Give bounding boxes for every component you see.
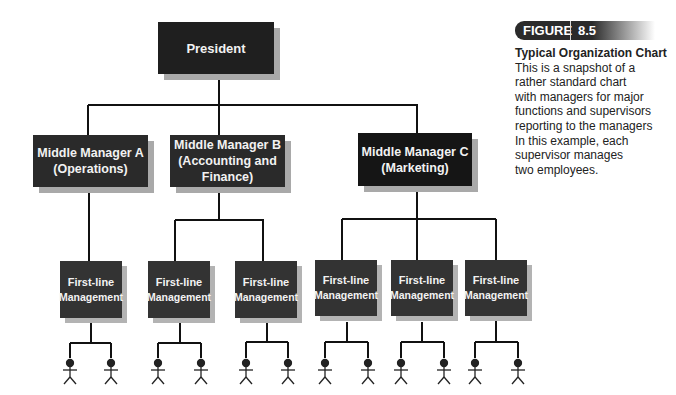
- manager-b-title: Middle Manager B: [174, 137, 281, 153]
- figure-label: FIGURE 8.5: [515, 21, 655, 40]
- president-label: President: [186, 41, 245, 56]
- first-line-box-3: First-lineManagement: [235, 261, 297, 318]
- first-line-box-6: First-lineManagement: [465, 260, 527, 316]
- president-box: President: [158, 22, 274, 74]
- manager-b-box: Middle Manager B (Accounting and Finance…: [170, 135, 285, 187]
- first-line-box-2: First-lineManagement: [148, 261, 210, 318]
- first-line-label: First-line: [147, 275, 211, 290]
- manager-a-box: Middle Manager A (Operations): [33, 135, 148, 187]
- caption-title: Typical Organization Chart: [515, 46, 675, 61]
- first-line-box-1: First-lineManagement: [60, 261, 122, 318]
- figure-word: FIGURE: [523, 21, 572, 40]
- management-label: Management: [59, 290, 123, 305]
- manager-b-dept-1: (Accounting and: [174, 153, 281, 169]
- caption-line: functions and supervisors: [515, 104, 675, 119]
- management-label: Management: [390, 288, 454, 303]
- caption-line: two employees.: [515, 163, 675, 178]
- employee-icon: [468, 360, 482, 385]
- manager-c-dept: (Marketing): [362, 160, 469, 176]
- employee-icon: [361, 360, 375, 385]
- manager-c-title: Middle Manager C: [362, 144, 469, 160]
- manager-a-title: Middle Manager A: [37, 145, 144, 161]
- management-label: Management: [314, 288, 378, 303]
- first-line-label: First-line: [59, 275, 123, 290]
- employee-icon: [318, 360, 332, 385]
- caption-line: with managers for major: [515, 90, 675, 105]
- figure-caption: Typical Organization Chart This is a sna…: [515, 46, 675, 177]
- management-label: Management: [234, 290, 298, 305]
- caption-line: In this example, each: [515, 134, 675, 149]
- figure-label-divider: [570, 21, 571, 40]
- employee-icon: [63, 360, 77, 385]
- first-line-label: First-line: [464, 273, 528, 288]
- employee-icon: [104, 360, 118, 385]
- first-line-box-4: First-lineManagement: [315, 260, 377, 316]
- caption-line: supervisor manages: [515, 148, 675, 163]
- first-line-label: First-line: [390, 273, 454, 288]
- employee-icon: [511, 360, 525, 385]
- employee-icon: [239, 360, 253, 385]
- caption-line: rather standard chart: [515, 75, 675, 90]
- manager-c-box: Middle Manager C (Marketing): [358, 133, 472, 186]
- employee-icon: [151, 360, 165, 385]
- first-line-box-5: First-lineManagement: [391, 260, 453, 316]
- first-line-label: First-line: [234, 275, 298, 290]
- management-label: Management: [464, 288, 528, 303]
- manager-b-dept-2: Finance): [174, 169, 281, 185]
- first-line-label: First-line: [314, 273, 378, 288]
- manager-a-dept: (Operations): [37, 161, 144, 177]
- caption-line: This is a snapshot of a: [515, 61, 675, 76]
- employee-icon: [281, 360, 295, 385]
- figure-number: 8.5: [578, 21, 596, 40]
- management-label: Management: [147, 290, 211, 305]
- employee-icons: [63, 360, 525, 385]
- employee-icon: [437, 360, 451, 385]
- caption-line: reporting to the managers: [515, 119, 675, 134]
- employee-icon: [194, 360, 208, 385]
- employee-icon: [394, 360, 408, 385]
